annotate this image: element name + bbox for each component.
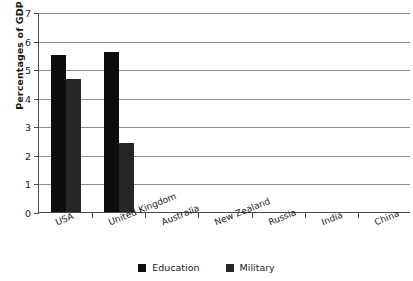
bar-group xyxy=(39,13,92,212)
bar-military xyxy=(119,143,134,212)
y-tick-label: 7 xyxy=(25,8,31,19)
y-tick-label: 3 xyxy=(25,122,31,133)
x-tick-mark xyxy=(92,212,93,218)
x-tick-mark xyxy=(358,212,359,218)
bar-education xyxy=(51,55,66,212)
bar-chart: Percentages of GDP 01234567 USAUnited Ki… xyxy=(0,0,413,281)
y-tick-label: 6 xyxy=(25,36,31,47)
bar-group xyxy=(145,13,198,212)
y-tick-label: 2 xyxy=(25,150,31,161)
y-tick-label: 1 xyxy=(25,179,31,190)
y-tick-label: 4 xyxy=(25,93,31,104)
bar-military xyxy=(66,79,81,212)
y-tick-label: 5 xyxy=(25,65,31,76)
bar-group xyxy=(305,13,358,212)
x-tick-mark xyxy=(305,212,306,218)
bar-education xyxy=(104,52,119,212)
x-axis-label: USA xyxy=(54,211,75,227)
legend-entry[interactable]: Military xyxy=(226,262,275,273)
legend-label: Military xyxy=(240,262,275,273)
legend-entry[interactable]: Education xyxy=(138,262,199,273)
chart-legend: EducationMilitary xyxy=(0,262,413,273)
bar-group xyxy=(252,13,305,212)
legend-label: Education xyxy=(152,262,199,273)
y-tick-label: 0 xyxy=(25,208,31,219)
y-tick-mark xyxy=(34,213,39,214)
bar-group xyxy=(198,13,251,212)
y-axis-title: Percentages of GDP xyxy=(14,0,25,131)
education-swatch-icon xyxy=(138,264,146,272)
bar-group xyxy=(92,13,145,212)
bar-group xyxy=(358,13,411,212)
plot-area: 01234567 xyxy=(38,13,410,213)
military-swatch-icon xyxy=(226,264,234,272)
